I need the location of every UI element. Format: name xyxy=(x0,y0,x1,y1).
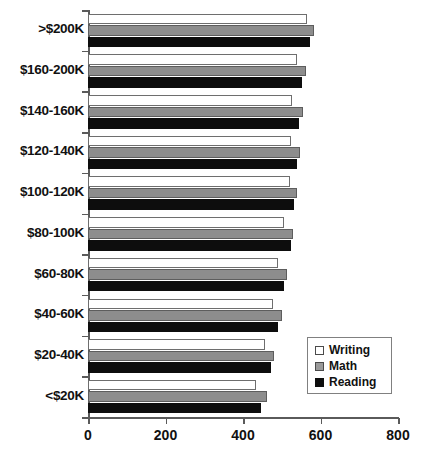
bar-math xyxy=(88,229,293,240)
bar-reading xyxy=(88,362,271,373)
y-axis-tick xyxy=(82,91,88,93)
bar-group xyxy=(88,136,398,170)
y-axis-tick-label: $20-40K xyxy=(0,347,84,362)
bar-group xyxy=(88,176,398,210)
bar-reading xyxy=(88,159,297,170)
bar-group xyxy=(88,299,398,333)
legend-label-reading: Reading xyxy=(329,375,376,389)
y-axis-tick-label: $40-60K xyxy=(0,306,84,321)
writing-swatch-icon xyxy=(315,346,324,355)
x-axis-tick-label: 0 xyxy=(68,427,108,443)
y-axis-tick xyxy=(82,254,88,256)
bar-group xyxy=(88,95,398,129)
bar-reading xyxy=(88,118,299,129)
bar-math xyxy=(88,25,314,36)
y-axis-tick xyxy=(82,295,88,297)
bar-reading xyxy=(88,77,302,88)
bar-writing xyxy=(88,95,292,106)
x-axis-tick xyxy=(166,418,168,424)
y-axis-tick-label: $160-200K xyxy=(0,62,84,77)
legend-item-writing[interactable]: Writing xyxy=(315,342,391,358)
bar-math xyxy=(88,310,282,321)
bar-group xyxy=(88,258,398,292)
y-axis-tick-label: $100-120K xyxy=(0,184,84,199)
bar-writing xyxy=(88,54,297,65)
y-axis-tick xyxy=(82,214,88,216)
y-axis-tick xyxy=(82,376,88,378)
y-axis-tick-label: $140-160K xyxy=(0,103,84,118)
y-axis-tick xyxy=(82,336,88,338)
bar-writing xyxy=(88,176,290,187)
x-axis-tick xyxy=(398,418,400,424)
legend-item-reading[interactable]: Reading xyxy=(315,374,391,390)
y-axis-tick xyxy=(82,51,88,53)
x-axis-tick xyxy=(88,418,90,424)
x-axis-tick-label: 400 xyxy=(223,427,263,443)
bar-reading xyxy=(88,199,294,210)
bar-writing xyxy=(88,14,307,25)
legend-item-math[interactable]: Math xyxy=(315,358,391,374)
bar-group xyxy=(88,217,398,251)
bar-reading xyxy=(88,281,284,292)
y-axis-tick xyxy=(82,132,88,134)
y-axis-labels: >$200K$160-200K$140-160K$120-140K$100-12… xyxy=(0,10,84,417)
x-axis-tick-label: 800 xyxy=(378,427,418,443)
math-swatch-icon xyxy=(315,362,324,371)
bar-math xyxy=(88,188,297,199)
chart-legend: Writing Math Reading xyxy=(307,337,392,394)
bar-math xyxy=(88,66,306,77)
x-axis-tick-label: 600 xyxy=(301,427,341,443)
y-axis-tick-label: >$200K xyxy=(0,21,84,36)
y-axis-tick-label: $80-100K xyxy=(0,225,84,240)
x-axis-tick xyxy=(321,418,323,424)
y-axis-tick-label: $60-80K xyxy=(0,266,84,281)
bar-math xyxy=(88,147,300,158)
x-axis-tick xyxy=(243,418,245,424)
legend-label-math: Math xyxy=(329,359,357,373)
y-axis-tick-label: <$20K xyxy=(0,388,84,403)
bar-writing xyxy=(88,258,278,269)
y-axis-tick-label: $120-140K xyxy=(0,143,84,158)
bar-writing xyxy=(88,380,256,391)
reading-swatch-icon xyxy=(315,378,324,387)
bar-reading xyxy=(88,240,291,251)
y-axis-tick xyxy=(82,173,88,175)
bar-math xyxy=(88,107,303,118)
bar-writing xyxy=(88,217,284,228)
bar-writing xyxy=(88,136,291,147)
bar-reading xyxy=(88,322,278,333)
bar-writing xyxy=(88,339,265,350)
bar-reading xyxy=(88,37,310,48)
bar-writing xyxy=(88,299,273,310)
bar-math xyxy=(88,269,287,280)
bar-group xyxy=(88,54,398,88)
bar-reading xyxy=(88,403,261,414)
x-axis-tick-label: 200 xyxy=(146,427,186,443)
bar-math xyxy=(88,351,274,362)
legend-label-writing: Writing xyxy=(329,343,370,357)
bar-math xyxy=(88,391,267,402)
bar-group xyxy=(88,14,398,48)
bar-chart: >$200K$160-200K$140-160K$120-140K$100-12… xyxy=(0,0,425,455)
y-axis-tick xyxy=(82,10,88,12)
